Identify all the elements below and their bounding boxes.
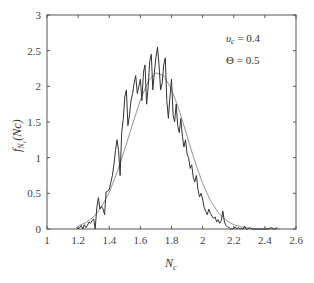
x-tick-label: 1.8 xyxy=(165,234,179,246)
y-axis-label: fNc(Nc) xyxy=(10,119,27,152)
y-tick-label: 0.5 xyxy=(27,187,41,199)
x-tick-label: 2.4 xyxy=(258,234,272,246)
x-tick-label: 1 xyxy=(44,234,50,246)
x-tick-label: 2.2 xyxy=(227,234,241,246)
annotation-theta: Θ = 0.5 xyxy=(226,54,260,66)
chart: 11.21.41.61.822.22.42.6 00.511.522.53 υc… xyxy=(0,0,314,283)
empirical-histogram-line xyxy=(77,47,278,229)
axis-ticks xyxy=(47,15,296,229)
x-tick-labels: 11.21.41.61.822.22.42.6 xyxy=(44,234,303,246)
fitted-density-line xyxy=(78,73,280,229)
x-tick-label: 1.6 xyxy=(134,234,148,246)
x-tick-label: 1.2 xyxy=(71,234,85,246)
x-tick-label: 2.6 xyxy=(289,234,303,246)
y-tick-label: 0 xyxy=(36,223,42,235)
y-tick-labels: 00.511.522.53 xyxy=(27,9,41,235)
y-tick-label: 2 xyxy=(36,80,42,92)
x-tick-label: 1.4 xyxy=(102,234,116,246)
plot-frame xyxy=(47,15,296,229)
x-tick-label: 2 xyxy=(200,234,206,246)
y-tick-label: 1.5 xyxy=(27,116,41,128)
y-tick-label: 3 xyxy=(36,9,42,21)
y-tick-label: 1 xyxy=(36,152,42,164)
annotation-upsilon: υc = 0.4 xyxy=(226,32,261,46)
x-axis-label: Nc xyxy=(164,256,177,272)
y-tick-label: 2.5 xyxy=(27,45,41,57)
